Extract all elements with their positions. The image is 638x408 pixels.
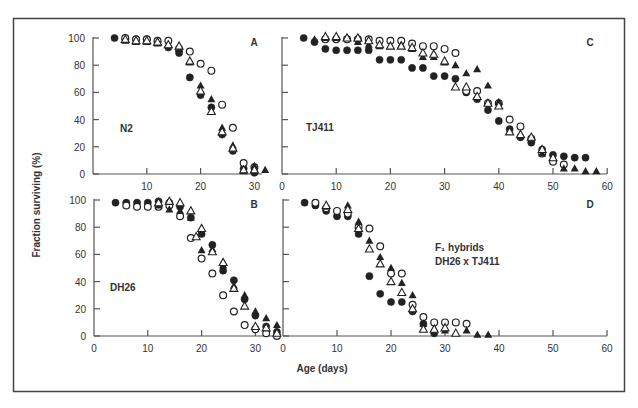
open-circle-point — [209, 270, 216, 277]
open-circle-point — [229, 124, 236, 131]
filled-circle-point — [322, 45, 329, 52]
strain-label-tj411: TJ411 — [306, 122, 334, 133]
filled-circle-point — [398, 56, 405, 63]
open-triangle-point — [321, 32, 329, 39]
x-tick-label: 10 — [331, 343, 343, 354]
filled-triangle-point — [311, 35, 319, 42]
filled-triangle-point — [462, 69, 470, 76]
y-tick-label: 100 — [68, 33, 85, 44]
x-tick-label: 50 — [547, 181, 559, 192]
filled-triangle-point — [207, 95, 215, 102]
open-circle-point — [398, 270, 405, 277]
filled-triangle-point — [592, 167, 600, 174]
open-circle-point — [134, 203, 141, 210]
open-circle-point — [452, 50, 459, 57]
open-circle-point — [198, 255, 205, 262]
filled-triangle-point — [571, 164, 579, 171]
filled-circle-point — [495, 117, 502, 124]
open-circle-point — [463, 320, 470, 327]
open-circle-point — [420, 314, 427, 321]
strain-label-dh26: DH26 — [110, 282, 136, 293]
x-tick-label: 10 — [331, 181, 343, 192]
open-triangle-point — [387, 277, 395, 284]
y-tick-label: 0 — [80, 331, 86, 342]
filled-circle-point — [452, 75, 459, 82]
strain-label-f1-line2: DH26 x TJ411 — [435, 256, 500, 267]
panel-d: 0102030405060 — [280, 199, 613, 354]
filled-circle-point — [343, 47, 350, 54]
y-tick-label: 60 — [75, 249, 87, 260]
open-triangle-point — [251, 322, 259, 329]
filled-circle-point — [111, 34, 118, 41]
open-circle-point — [230, 308, 237, 315]
filled-circle-point — [376, 56, 383, 63]
strain-label-n2: N2 — [120, 123, 133, 134]
open-triangle-point — [187, 207, 195, 214]
y-tick-label: 20 — [74, 142, 86, 153]
filled-triangle-point — [261, 166, 269, 173]
filled-triangle-point — [398, 279, 406, 286]
filled-circle-point — [484, 106, 491, 113]
filled-circle-point — [430, 72, 437, 79]
filled-triangle-point — [473, 330, 481, 337]
panel-a: 020406080100102030 — [68, 33, 269, 192]
y-tick-label: 40 — [75, 277, 87, 288]
filled-circle-point — [186, 74, 193, 81]
x-tick-label: 10 — [142, 343, 154, 354]
open-triangle-point — [332, 32, 340, 39]
x-tick-label: 60 — [602, 181, 614, 192]
x-tick-label: 50 — [547, 343, 559, 354]
x-tick-label: 20 — [196, 343, 208, 354]
panel-letter-d: D — [586, 199, 593, 210]
filled-circle-point — [387, 298, 394, 305]
filled-circle-point — [408, 64, 415, 71]
filled-triangle-point — [365, 237, 373, 244]
filled-triangle-point — [451, 61, 459, 68]
open-circle-point — [506, 116, 513, 123]
open-triangle-point — [398, 288, 406, 295]
open-circle-point — [452, 319, 459, 326]
panel-b: 0204060801000102030 — [69, 195, 281, 354]
x-tick-label: 10 — [141, 181, 153, 192]
open-triangle-point — [175, 42, 183, 49]
open-triangle-point — [241, 302, 249, 309]
y-tick-label: 80 — [74, 60, 86, 71]
x-tick-label: 0 — [279, 181, 285, 192]
filled-circle-point — [582, 154, 589, 161]
open-triangle-point — [441, 57, 449, 64]
filled-circle-point — [571, 154, 578, 161]
x-tick-label: 0 — [91, 343, 97, 354]
panel-letter-c: C — [586, 37, 593, 48]
open-triangle-point — [219, 258, 227, 265]
x-tick-label: 20 — [385, 181, 397, 192]
open-circle-point — [430, 43, 437, 50]
open-circle-point — [517, 123, 524, 130]
filled-triangle-point — [582, 167, 590, 174]
open-triangle-point — [516, 130, 524, 137]
filled-triangle-point — [484, 330, 492, 337]
y-tick-label: 40 — [74, 115, 86, 126]
open-circle-point — [123, 202, 130, 209]
open-circle-point — [366, 225, 373, 232]
filled-triangle-point — [262, 314, 270, 321]
open-triangle-point — [430, 50, 438, 57]
open-circle-point — [219, 101, 226, 108]
open-triangle-point — [198, 224, 206, 231]
open-circle-point — [144, 203, 151, 210]
filled-circle-point — [419, 64, 426, 71]
y-tick-label: 20 — [75, 304, 87, 315]
x-tick-label: 60 — [601, 343, 613, 354]
filled-triangle-point — [463, 326, 471, 333]
open-circle-point — [441, 45, 448, 52]
filled-triangle-point — [198, 246, 206, 253]
open-circle-point — [197, 60, 204, 67]
survival-figure: Fraction surviving (%) Age (days) 020406… — [0, 0, 638, 408]
y-tick-label: 100 — [69, 195, 86, 206]
filled-triangle-point — [241, 291, 249, 298]
open-circle-point — [241, 322, 248, 329]
x-tick-label: 30 — [249, 181, 261, 192]
panel-letter-a: A — [250, 37, 257, 48]
filled-circle-point — [377, 290, 384, 297]
open-triangle-point — [451, 83, 459, 90]
filled-triangle-point — [387, 264, 395, 271]
